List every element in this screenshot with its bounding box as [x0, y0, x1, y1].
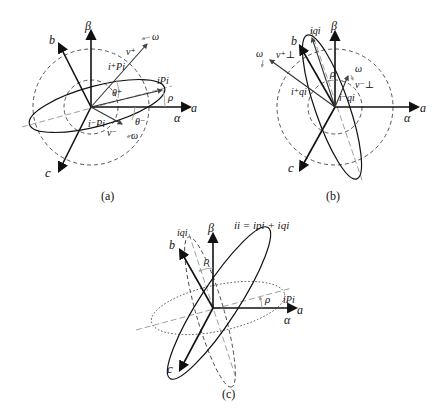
label-alpha: α — [404, 111, 411, 125]
omega-top-arrow — [142, 37, 150, 39]
label-i-qi: iqi — [177, 227, 188, 238]
panel-c: β b c a α iqi ii = ipi + iqi iPi ρ ρ (c) — [136, 217, 303, 401]
label-alpha: α — [174, 111, 181, 125]
label-a: a — [297, 303, 303, 317]
label-omega-left: ω — [256, 48, 263, 59]
label-i-pi: iPi — [283, 294, 295, 305]
rho-right-arc — [260, 297, 262, 308]
label-b: b — [169, 238, 175, 252]
label-c: c — [167, 361, 173, 376]
label-beta: β — [330, 19, 337, 33]
panel-b: β b c a α iqi v⁺⊥ i⁺qi ρ v⁻⊥ i⁻qi ω ω (b… — [256, 19, 426, 203]
label-i-qi-minus: i⁻qi — [339, 92, 355, 103]
label-a: a — [191, 101, 197, 115]
label-a: a — [420, 101, 426, 115]
label-i-pi-minus: i⁻Pi — [88, 118, 105, 129]
v-perp-plus-vector — [270, 60, 335, 107]
label-i-pi-plus: i⁺Pi — [108, 61, 125, 72]
label-alpha: α — [284, 313, 291, 327]
b-axis — [59, 44, 91, 107]
label-theta-minus: θ⁻ — [135, 116, 145, 127]
label-rho: ρ — [167, 91, 173, 103]
label-b: b — [49, 33, 55, 47]
vector-diagram: β b c a α v⁺ i⁺Pi iPi θ⁺ θ⁻ ρ i⁻Pi v⁻ ω … — [0, 0, 443, 411]
label-v-perp-plus: v⁺⊥ — [276, 49, 295, 60]
label-b: b — [291, 34, 297, 48]
caption-b: (b) — [326, 189, 340, 203]
omega-left-arrow — [262, 60, 263, 67]
label-rho-right: ρ — [264, 293, 270, 305]
caption-c: (c) — [222, 387, 235, 401]
c-axis — [59, 107, 91, 171]
label-v-minus: v⁻ — [107, 127, 117, 138]
label-omega-bottom: ω — [131, 130, 138, 141]
label-i-qi-plus: i⁺qi — [291, 86, 307, 97]
label-i-qi: iqi — [310, 25, 321, 36]
label-v-plus: v⁺ — [126, 46, 136, 57]
caption-a: (a) — [101, 189, 114, 203]
ellipse-major-axis — [311, 30, 362, 180]
label-c: c — [45, 165, 51, 180]
label-c: c — [288, 160, 294, 175]
label-rho: ρ — [329, 67, 335, 79]
label-theta-plus: θ⁺ — [112, 87, 122, 98]
label-beta: β — [84, 19, 91, 33]
label-omega-top: ω — [152, 31, 159, 42]
rho-arc — [326, 80, 335, 82]
label-rho-top: ρ — [203, 254, 209, 266]
label-omega-right: ω — [355, 63, 362, 74]
label-beta: β — [207, 221, 214, 235]
label-v-perp-minus: v⁻⊥ — [355, 79, 374, 90]
label-i-pi: iPi — [157, 75, 169, 86]
label-equation: ii = ipi + iqi — [234, 219, 289, 231]
panel-a: β b c a α v⁺ i⁺Pi iPi θ⁺ θ⁻ ρ i⁻Pi v⁻ ω … — [22, 19, 197, 203]
omega-right-arrow — [351, 75, 353, 80]
